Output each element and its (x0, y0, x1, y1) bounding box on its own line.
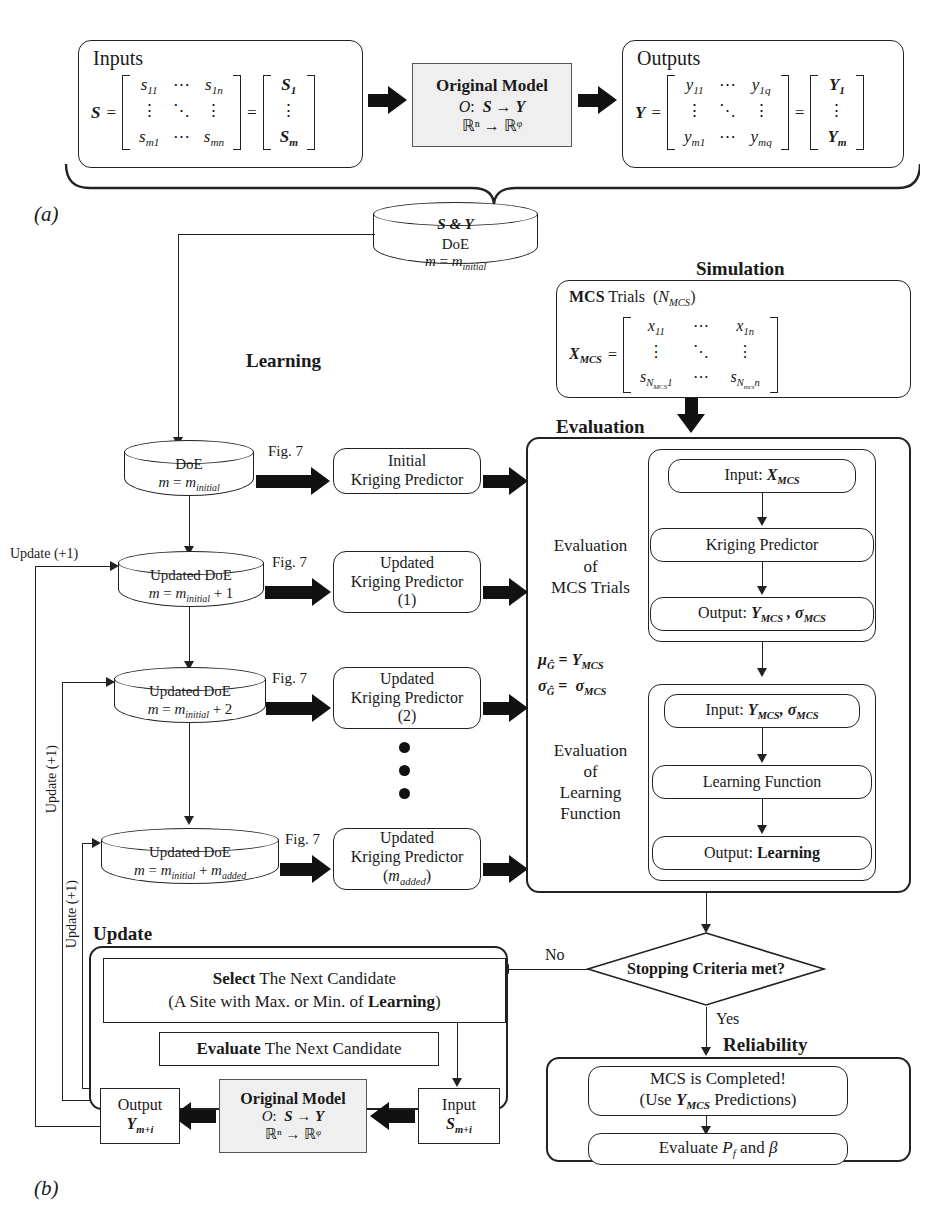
eval-step-label: Output: Learning (704, 844, 820, 862)
simulation-box: MCS Trials (NMCS) XMCS = x11 ⋯ x1n ⋮ ⋱ ⋮… (556, 280, 911, 398)
section-label-reliability: Reliability (723, 1034, 807, 1056)
done-line-1: MCS is Completed! (650, 1069, 786, 1090)
row1-to-row2-line (189, 496, 190, 548)
source-doe-header: S & Y (373, 216, 538, 234)
caption-line: Evaluation (538, 535, 643, 556)
source-doe-line1: DoE (373, 236, 538, 254)
eval-g1-line1 (762, 493, 763, 519)
decision-yes-label: Yes (716, 1010, 739, 1028)
predictor-line1: Updated (380, 554, 434, 573)
arrow-predictor-to-eval-row4 (483, 855, 528, 883)
cell: ⋯ (679, 318, 721, 341)
feed-line-v (178, 234, 179, 439)
mapping-line-1: μĜ = YMCS (538, 648, 606, 674)
output-label: Output (118, 1095, 162, 1114)
feed-line-h (178, 234, 375, 235)
section-label-evaluation: Evaluation (556, 416, 645, 438)
decision-question: Stopping Criteria met? (586, 960, 826, 978)
arrow-predictor-to-eval-row3 (483, 694, 528, 722)
doe-row3-text: Updated DoE m = minitial + 2 (114, 683, 266, 720)
evaluation-mapping: μĜ = YMCS σĜ = σMCS (538, 648, 606, 699)
evaluate-candidate-box: Evaluate The Next Candidate (159, 1032, 439, 1066)
eval-bridge-arrow (757, 668, 767, 677)
doe-line2: m = minitial + 1 (118, 585, 264, 605)
eval-g2-line2 (762, 799, 763, 827)
evaluate-pf-beta-box: Evaluate Pf and β (588, 1133, 848, 1165)
section-label-learning: Learning (246, 350, 321, 372)
doe-cylinder-row3: Updated DoE m = minitial + 2 (114, 667, 266, 723)
mcs-completed-box: MCS is Completed! (Use YMCS Predictions) (588, 1066, 848, 1116)
doe-line2: m = minitial (124, 474, 254, 494)
arrow-doe-to-predictor-row2 (265, 578, 331, 606)
predictor-line2: Kriging Predictor (351, 471, 463, 490)
fig7-label-row2: Fig. 7 (272, 554, 307, 571)
doe-line1: Updated DoE (101, 844, 279, 862)
update-loop-3-arrow (92, 838, 101, 848)
evaluation-group2-caption: Evaluation of Learning Function (538, 740, 643, 824)
xmcs-symbol: XMCS (569, 345, 602, 365)
doe-line2: m = minitial + 2 (114, 701, 266, 721)
update-model-title: Original Model (240, 1090, 345, 1108)
fig7-label-row3: Fig. 7 (272, 670, 307, 687)
arrow-simulation-to-evaluation (677, 398, 705, 433)
predictor-line2: Kriging Predictor (351, 573, 463, 592)
eval-step-label: Output: YMCS , σMCS (698, 604, 826, 624)
update-loop-3-v (82, 843, 83, 1088)
arrow-predictor-to-eval-row1 (483, 467, 528, 495)
update-loop-2-arrow (106, 677, 115, 687)
doe-line1: DoE (124, 456, 254, 474)
input-label: Input (442, 1095, 476, 1114)
decision-yes-arrow (701, 1047, 711, 1056)
row3-to-row4-line (189, 723, 190, 818)
caption-line: MCS Trials (538, 577, 643, 598)
done-line-2: (Use YMCS Predictions) (640, 1090, 797, 1113)
stopping-criteria-decision: Stopping Criteria met? (586, 931, 826, 1007)
arrow-input-to-model (370, 1102, 415, 1130)
panel-b: S & Y DoE m = minitial Learning Simulati… (0, 0, 926, 1225)
doe-row2-text: Updated DoE m = minitial + 1 (118, 567, 264, 604)
evaluation-group1-caption: Evaluation of MCS Trials (538, 535, 643, 598)
update-loop-label-3: Update (+1) (64, 880, 80, 948)
eval-step-input-ymcs: Input: YMCS, σMCS (664, 694, 860, 728)
section-label-simulation: Simulation (696, 258, 785, 280)
eval-g2-arrow2 (757, 825, 767, 834)
update-loop-1-v (35, 566, 36, 1126)
xmcs-equation: XMCS = x11 ⋯ x1n ⋮ ⋱ ⋮ sNMCS1 ⋯ sNmcsn (569, 317, 778, 393)
eval-g2-arrow1 (757, 754, 767, 763)
predictor-line3: (madded) (383, 867, 431, 889)
update-model-spaces: ℝⁿ → ℝᵠ (265, 1125, 321, 1143)
caption-line: Evaluation (538, 740, 643, 761)
select-candidate-box: Select The Next Candidate (A Site with M… (103, 958, 506, 1023)
caption-line: of (538, 556, 643, 577)
select-line-2: (A Site with Max. or Min. of Learning) (168, 991, 440, 1013)
arrow-doe-to-predictor-row1 (256, 467, 330, 495)
fig7-label-row1: Fig. 7 (268, 443, 303, 460)
predictor-line3: (1) (398, 591, 417, 610)
fig7-label-row4: Fig. 7 (285, 831, 320, 848)
source-doe-text: S & Y DoE m = minitial (373, 216, 538, 273)
cell: x11 (635, 318, 677, 341)
doe-row4-text: Updated DoE m = minitial + madded (101, 844, 279, 881)
evaluate-pf-text: Evaluate Pf and β (659, 1138, 778, 1159)
eval-step-input-xmcs: Input: XMCS (668, 459, 856, 493)
eval-step-output-learning: Output: Learning (652, 836, 872, 870)
arrow-predictor-to-eval-row2 (483, 578, 528, 606)
predictor-line3: (2) (398, 707, 417, 726)
decision-no-line (508, 969, 588, 970)
doe-line2: m = minitial + madded (101, 862, 279, 882)
source-doe-cylinder: S & Y DoE m = minitial (373, 202, 538, 264)
xmcs-matrix: x11 ⋯ x1n ⋮ ⋱ ⋮ sNMCS1 ⋯ sNmcsn (623, 317, 778, 393)
select-line-1: Select The Next Candidate (213, 968, 396, 990)
predictor-box-row4: Updated Kriging Predictor (madded) (333, 828, 481, 890)
decision-no-label: No (545, 946, 565, 964)
predictor-line2: Kriging Predictor (351, 848, 463, 867)
doe-line1: Updated DoE (114, 683, 266, 701)
update-loop-label-2: Update (+1) (44, 745, 60, 813)
update-loop-2-h-top (62, 682, 110, 683)
cell: x1n (724, 318, 766, 341)
arrow-doe-to-predictor-row4 (280, 855, 331, 883)
update-output-box: Output Ym+i (100, 1088, 180, 1144)
update-to-input-line (457, 1023, 458, 1080)
update-loop-2-v (62, 682, 63, 1100)
vertical-ellipsis-dots (399, 742, 410, 799)
